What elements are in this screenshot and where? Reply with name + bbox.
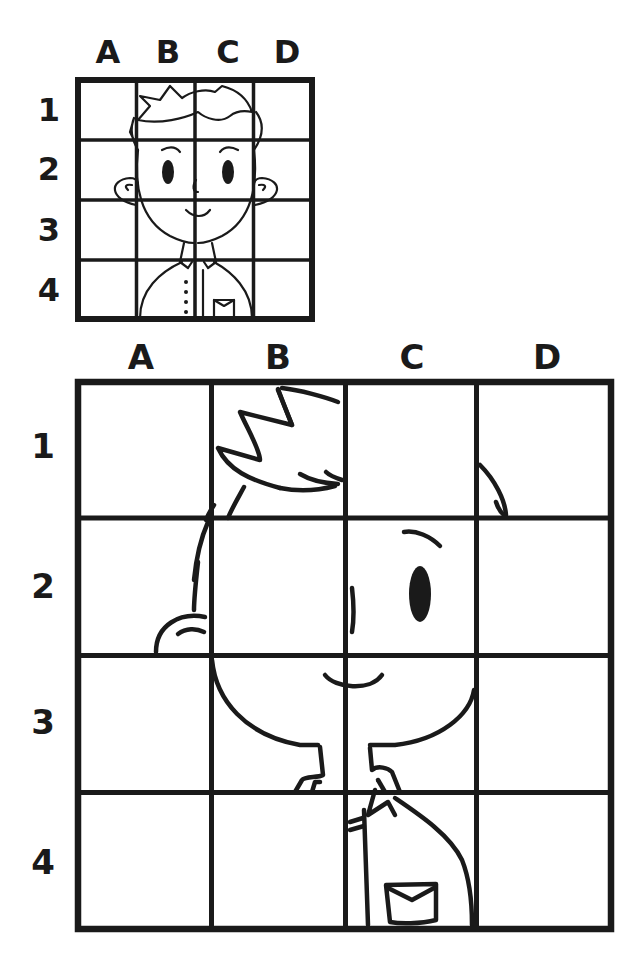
practice-eye xyxy=(409,566,431,622)
practice-grid xyxy=(0,0,642,960)
practice-grid-lines xyxy=(78,382,611,929)
